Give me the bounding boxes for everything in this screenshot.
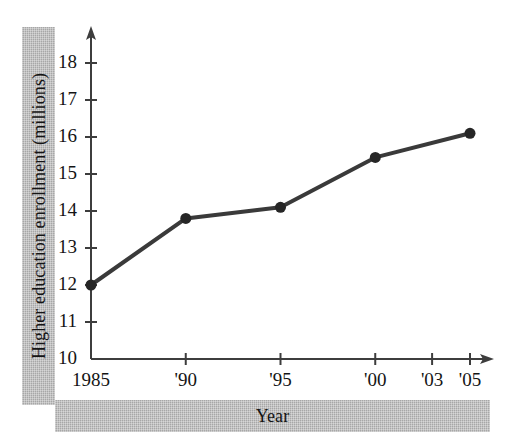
- y-axis-tick-label: 14: [43, 199, 77, 221]
- data-point-marker: [275, 202, 286, 213]
- x-axis-tick-label: '90: [156, 369, 216, 391]
- y-axis-tick-label: 12: [43, 273, 77, 295]
- data-point-markers: [86, 128, 476, 291]
- data-point-marker: [370, 152, 381, 163]
- y-axis-tick-label: 10: [43, 347, 77, 369]
- y-axis-tick-label: 11: [43, 310, 77, 332]
- data-point-marker: [465, 128, 476, 139]
- axes: [86, 26, 494, 364]
- y-axis-tick-label: 13: [43, 236, 77, 258]
- data-point-marker: [86, 280, 97, 291]
- x-axis-tick-label: '00: [345, 369, 405, 391]
- x-axis-tick-label: '95: [251, 369, 311, 391]
- data-point-marker: [180, 213, 191, 224]
- x-axis-tick-label: '05: [440, 369, 500, 391]
- y-axis-tick-label: 17: [43, 88, 77, 110]
- chart-figure: Higher education enrollment (millions) Y…: [0, 0, 510, 438]
- y-axis-tick-label: 15: [43, 162, 77, 184]
- y-axis-tick-label: 16: [43, 125, 77, 147]
- y-axis-tick-label: 18: [43, 51, 77, 73]
- x-axis-tick-label: 1985: [61, 369, 121, 391]
